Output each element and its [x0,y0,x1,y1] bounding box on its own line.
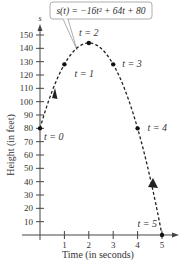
direction-arrow-icon [148,178,158,188]
x-ticks: 12345 [62,231,165,250]
y-tick-label: 140 [20,43,34,53]
point-marker [160,233,164,237]
x-tick-label: 4 [135,240,140,250]
y-tick-label: 150 [20,30,34,40]
point-label: t = 3 [122,58,142,69]
y-tick-label: 120 [20,70,34,80]
point-label: t = 0 [44,131,64,142]
x-axis-title: Time (in seconds) [62,249,134,261]
point-label: t = 4 [148,122,168,133]
point-label: t = 1 [74,68,94,79]
projectile-height-chart: s(t) = −16t² + 64t + 80 s 10203040506070… [0,0,180,268]
y-tick-label: 50 [24,163,34,173]
y-tick-label: 80 [24,123,34,133]
marked-points: t = 0t = 1t = 2t = 3t = 4t = 5 [38,27,167,237]
y-tick-label: 30 [24,190,34,200]
y-tick-label: 130 [20,57,34,67]
y-axis-title: Height (in feet) [5,114,17,176]
point-marker [62,62,66,66]
x-axis [22,233,179,238]
y-axis-arrow-icon [38,24,43,31]
point-marker [87,41,91,45]
y-tick-label: 40 [24,177,34,187]
equation-callout: s(t) = −16t² + 64t + 80 [50,2,152,50]
x-axis-arrow-icon [172,233,179,238]
point-marker [111,62,115,66]
point-marker [135,126,139,130]
y-tick-label: 20 [24,203,34,213]
y-tick-label: 10 [24,217,34,227]
y-axis-symbol: s [38,14,41,23]
x-tick-label: 5 [160,240,165,250]
point-label: t = 2 [79,27,99,38]
point-marker [38,126,42,130]
y-tick-label: 60 [24,150,34,160]
direction-arrow-icon [52,88,58,99]
equation-text: s(t) = −16t² + 64t + 80 [56,6,145,17]
y-tick-label: 110 [20,83,34,93]
point-label: t = 5 [137,218,157,229]
y-tick-label: 100 [20,97,34,107]
y-tick-label: 90 [24,110,34,120]
y-tick-label: 70 [24,137,34,147]
